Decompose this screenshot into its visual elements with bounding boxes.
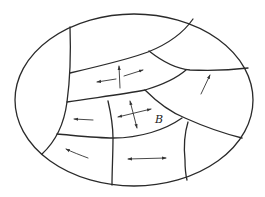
arrow-double-horizontal-icon — [128, 158, 166, 159]
outer-oval — [15, 14, 253, 186]
region-label-b: B — [154, 113, 163, 126]
boundary-upper-right — [149, 51, 248, 70]
arrow-left-icon — [97, 79, 116, 82]
arrow-curved-left-icon — [66, 149, 88, 158]
region-diagram: B — [0, 0, 265, 197]
diagram-canvas: B — [0, 0, 265, 197]
arrow-left-icon — [74, 119, 93, 120]
boundary-top-band — [70, 19, 193, 73]
boundary-right-vertical — [184, 122, 188, 180]
boundary-center-vertical — [108, 101, 113, 185]
arrow-right-icon — [124, 70, 143, 76]
arrow-up-icon — [119, 66, 120, 88]
boundary-lower-band — [57, 118, 182, 138]
arrow-up-right-icon — [201, 75, 210, 94]
arrow-double-horizontal-icon — [118, 109, 151, 117]
arrow-double-vertical-icon — [130, 101, 137, 128]
